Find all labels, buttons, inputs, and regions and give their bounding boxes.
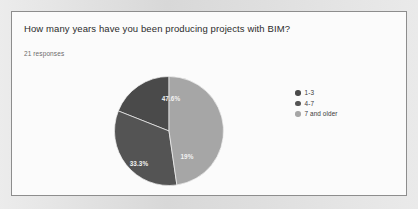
pie-slice[interactable] [169, 76, 224, 184]
legend-item-label: 7 and older [305, 110, 338, 118]
pie-chart-svg: 19%33.3%47.6% [114, 76, 224, 186]
legend-swatch-icon [295, 111, 301, 117]
pie-chart: 19%33.3%47.6% 1-34-77 and older [12, 12, 407, 196]
pie-slice-label: 33.3% [130, 160, 149, 167]
chart-legend: 1-34-77 and older [295, 88, 395, 120]
pie-slice-group [115, 76, 224, 185]
pie-chart-canvas: 19%33.3%47.6% [114, 76, 224, 186]
legend-swatch-icon [295, 90, 301, 96]
pie-slice-label: 19% [180, 153, 193, 160]
legend-item[interactable]: 1-3 [295, 88, 395, 98]
survey-result-card: How many years have you been producing p… [11, 11, 407, 196]
legend-swatch-icon [295, 101, 301, 107]
legend-item-label: 4-7 [305, 100, 315, 108]
pie-slice-label: 47.6% [162, 95, 181, 102]
legend-item-label: 1-3 [305, 89, 315, 97]
legend-item[interactable]: 4-7 [295, 99, 395, 109]
legend-item[interactable]: 7 and older [295, 109, 395, 119]
